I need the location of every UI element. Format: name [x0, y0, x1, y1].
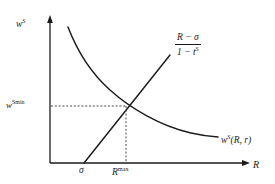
economics-figure: wS wSmin σ Rmax R wS(R, r) R − σ 1 − tS [0, 0, 275, 184]
fraction-denominator: 1 − tS [175, 45, 201, 58]
y-axis [47, 15, 53, 163]
ws-curve-label: wS(R, r) [221, 134, 251, 146]
y-axis-arrowhead [47, 15, 53, 23]
zero-profit-line [84, 55, 170, 163]
x-axis-title: R [253, 160, 259, 170]
wsmin-superscript: Smin [12, 99, 25, 105]
rmax-superscript: max [118, 165, 129, 172]
plot-canvas [0, 0, 275, 184]
y-axis-title-superscript: S [22, 17, 25, 24]
x-axis-arrowhead [242, 160, 250, 166]
x-tick-label-sigma: σ [79, 166, 84, 176]
y-tick-label-wsmin: wSmin [6, 100, 25, 110]
fraction-denominator-base: 1 − t [177, 47, 196, 57]
ws-curve-label-args: (R, r) [230, 135, 251, 145]
zero-profit-line-label: R − σ 1 − tS [175, 33, 201, 57]
fraction-numerator: R − σ [175, 33, 201, 45]
x-tick-label-rmax: Rmax [112, 166, 129, 178]
fraction-denominator-superscript: S [196, 45, 199, 52]
y-axis-title: wS [16, 18, 25, 30]
